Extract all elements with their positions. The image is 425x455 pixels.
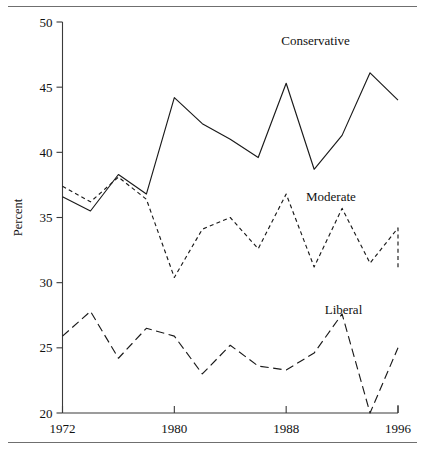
y-tick-label-20: 20 [40,406,53,421]
y-tick-label-45: 45 [40,80,53,95]
y-tick-label-25: 25 [40,340,53,355]
y-tick-label-35: 35 [40,210,53,225]
x-tick-label-1980: 1980 [161,421,187,436]
y-tick-label-40: 40 [40,145,53,160]
y-axis: 50454035302520 [40,15,63,421]
series-line-liberal [63,311,399,413]
chart-canvas: 50454035302520 1972198019881996 Conserva… [0,0,425,455]
x-axis: 1972198019881996 [50,405,412,436]
series-lines [63,73,399,413]
y-tick-label-30: 30 [40,275,53,290]
x-tick-label-1996: 1996 [385,421,412,436]
x-tick-label-1972: 1972 [50,421,76,436]
line-chart-figure: 50454035302520 1972198019881996 Conserva… [0,0,425,455]
y-axis-title: Percent [11,198,25,236]
y-tick-label-50: 50 [40,15,53,30]
series-label-moderate: Moderate [306,189,356,204]
x-tick-label-1988: 1988 [273,421,299,436]
series-label-conservative: Conservative [281,33,350,48]
series-label-liberal: Liberal [325,302,363,317]
series-labels: ConservativeModerateLiberal [281,33,362,316]
